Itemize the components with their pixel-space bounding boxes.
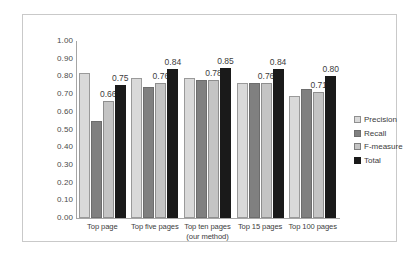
y-axis-tick-label: 0.40 [33, 143, 73, 151]
plot-area: 0.660.750.760.840.780.850.760.840.710.80 [76, 41, 339, 218]
x-axis-category-name: Top 100 pages [288, 222, 337, 231]
y-axis-tick-label: 0.10 [33, 196, 73, 204]
bar-precision [79, 73, 90, 218]
bar-group: 0.780.85 [181, 41, 234, 218]
bar-f-measure: 0.76 [155, 83, 166, 218]
bar-group: 0.710.80 [286, 41, 339, 218]
bar-total: 0.84 [167, 69, 178, 218]
x-axis-category-name: Top page [87, 222, 117, 231]
bar-value-label: 0.75 [112, 74, 129, 83]
bar-f-measure: 0.76 [261, 83, 272, 218]
bar-groups: 0.660.750.760.840.780.850.760.840.710.80 [76, 41, 339, 218]
bar-recall [91, 121, 102, 218]
legend-label: F-measure [364, 142, 403, 151]
legend-swatch-icon [354, 130, 361, 137]
y-axis-tick-label: 0.20 [33, 179, 73, 187]
bar-precision [237, 83, 248, 218]
bar-recall [196, 80, 207, 218]
y-axis-tick-label: 1.00 [33, 37, 73, 45]
bar-recall [143, 87, 154, 218]
x-axis-category-label: Top 15 pages [234, 222, 287, 242]
x-axis-category-name: Top five pages [131, 222, 179, 231]
legend-swatch-icon [354, 116, 361, 123]
x-axis-category-label: Top page [76, 222, 129, 242]
y-axis-tick-label: 0.80 [33, 72, 73, 80]
x-axis-line [76, 218, 340, 219]
x-axis-category-label: Top 100 pages [286, 222, 339, 242]
bar-value-label: 0.84 [165, 58, 182, 67]
legend-item-precision: Precision [354, 115, 416, 124]
bar-f-measure: 0.78 [208, 80, 219, 218]
legend-swatch-icon [354, 143, 361, 150]
bar-value-label: 0.80 [322, 65, 339, 74]
bar-value-label: 0.84 [270, 58, 287, 67]
bar-f-measure: 0.66 [103, 101, 114, 218]
legend-item-total: Total [354, 156, 416, 165]
y-axis-tick-label: 0.60 [33, 108, 73, 116]
bar-total: 0.75 [115, 85, 126, 218]
y-axis-tick-label: 0.00 [33, 214, 73, 222]
bar-precision [184, 78, 195, 218]
y-axis-tick-labels: 1.000.900.800.700.600.500.400.300.200.10… [29, 41, 73, 219]
y-axis-tick-label: 0.90 [33, 55, 73, 63]
bar-total: 0.85 [220, 68, 231, 218]
y-axis-tick-label: 0.50 [33, 126, 73, 134]
x-axis-category-label: Top five pages [129, 222, 182, 242]
bar-group: 0.660.75 [76, 41, 129, 218]
x-axis-category-sublabel: (our method) [181, 232, 234, 242]
bar-group: 0.760.84 [129, 41, 182, 218]
chart-screenshot: 1.000.900.800.700.600.500.400.300.200.10… [0, 0, 420, 262]
legend-label: Precision [364, 115, 397, 124]
bar-precision [131, 78, 142, 218]
chart-frame: 1.000.900.800.700.600.500.400.300.200.10… [22, 14, 397, 242]
y-axis-tick-label: 0.30 [33, 161, 73, 169]
x-axis-category-label: Top ten pages(our method) [181, 222, 234, 242]
legend-label: Total [364, 156, 381, 165]
bar-group: 0.760.84 [234, 41, 287, 218]
x-axis-category-name: Top ten pages [184, 222, 230, 231]
bar-total: 0.84 [273, 69, 284, 218]
y-axis-tick-label: 0.70 [33, 90, 73, 98]
bar-total: 0.80 [325, 76, 336, 218]
x-axis-category-name: Top 15 pages [238, 222, 282, 231]
bar-f-measure: 0.71 [313, 92, 324, 218]
legend-item-recall: Recall [354, 129, 416, 138]
bar-recall [301, 89, 312, 218]
legend-item-f-measure: F-measure [354, 142, 416, 151]
bar-value-label: 0.85 [217, 57, 234, 66]
legend-swatch-icon [354, 157, 361, 164]
bar-recall [249, 83, 260, 218]
chart-legend: PrecisionRecallF-measureTotal [354, 115, 416, 169]
x-axis-category-labels: Top pageTop five pagesTop ten pages(our … [76, 222, 339, 242]
bar-precision [289, 96, 300, 218]
legend-label: Recall [364, 129, 386, 138]
